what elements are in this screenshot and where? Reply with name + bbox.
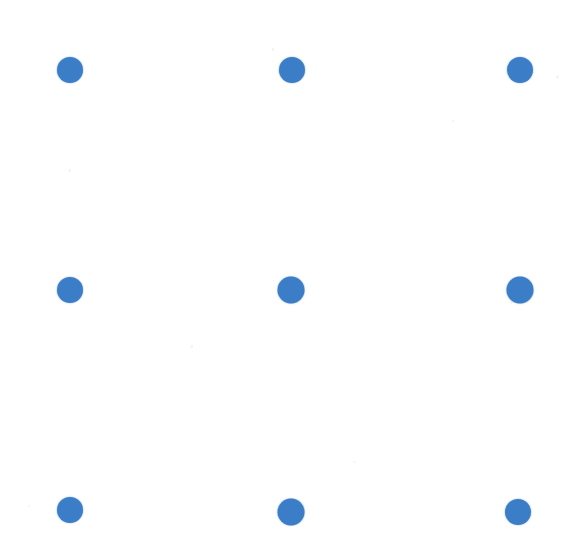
- dot-r1-c2: [279, 57, 305, 83]
- dot-r2-c1: [57, 277, 83, 303]
- dot-r3-c2: [278, 499, 305, 526]
- dot-r1-c3: [507, 57, 533, 83]
- dot-r3-c1: [57, 497, 83, 523]
- dot-r1-c1: [57, 57, 83, 83]
- dot-r2-c2: [278, 277, 305, 304]
- dot-r2-c3: [507, 277, 534, 304]
- dot-r3-c3: [505, 499, 531, 525]
- dot-grid-canvas: [0, 0, 581, 550]
